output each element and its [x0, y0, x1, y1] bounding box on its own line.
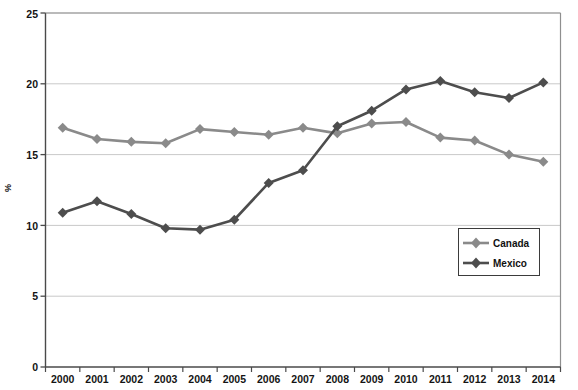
data-point-canada-2012 — [470, 135, 480, 145]
series-canada — [58, 117, 549, 167]
data-point-canada-2013 — [504, 150, 514, 160]
data-point-mexico-2011 — [435, 76, 445, 86]
data-point-canada-2010 — [401, 117, 411, 127]
data-point-mexico-2002 — [126, 209, 136, 219]
chart-plot-area — [0, 0, 578, 390]
data-point-canada-2009 — [367, 118, 377, 128]
legend-marker-canada — [462, 236, 490, 250]
data-point-mexico-2003 — [161, 223, 171, 233]
data-point-canada-2000 — [58, 123, 68, 133]
line-chart: % 0 5 10 15 20 25 2000200120022003200420… — [0, 0, 578, 390]
legend-label-mexico: Mexico — [493, 258, 527, 269]
data-point-canada-2003 — [161, 138, 171, 148]
chart-legend: Canada Mexico — [458, 228, 540, 276]
y-tick-marks — [41, 13, 46, 367]
data-point-mexico-2014 — [538, 77, 548, 87]
legend-entry-canada: Canada — [459, 233, 541, 253]
y-tick-label-20: 20 — [12, 79, 38, 89]
y-tick-label-25: 25 — [12, 9, 38, 19]
data-point-mexico-2001 — [92, 196, 102, 206]
data-point-mexico-2000 — [58, 208, 68, 218]
y-axis-title: % — [0, 181, 18, 195]
data-point-mexico-2013 — [504, 93, 514, 103]
legend-label-canada: Canada — [493, 238, 529, 249]
axes — [46, 13, 561, 367]
data-point-mexico-2012 — [470, 87, 480, 97]
legend-marker-mexico — [462, 256, 490, 270]
x-tick-label-2014: 2014 — [523, 374, 563, 385]
y-tick-label-15: 15 — [12, 150, 38, 160]
y-tick-label-10: 10 — [12, 221, 38, 231]
y-tick-label-0: 0 — [12, 362, 38, 372]
data-point-canada-2006 — [264, 130, 274, 140]
data-point-canada-2001 — [92, 134, 102, 144]
data-point-canada-2007 — [298, 123, 308, 133]
data-point-canada-2002 — [126, 137, 136, 147]
data-point-mexico-2004 — [195, 225, 205, 235]
data-point-canada-2014 — [538, 157, 548, 167]
y-tick-label-5: 5 — [12, 291, 38, 301]
data-point-canada-2011 — [435, 133, 445, 143]
x-tick-marks — [46, 367, 561, 372]
data-point-canada-2004 — [195, 124, 205, 134]
series-mexico — [58, 76, 549, 235]
legend-entry-mexico: Mexico — [459, 253, 541, 273]
data-point-canada-2005 — [229, 127, 239, 137]
series-line-mexico — [63, 81, 544, 230]
